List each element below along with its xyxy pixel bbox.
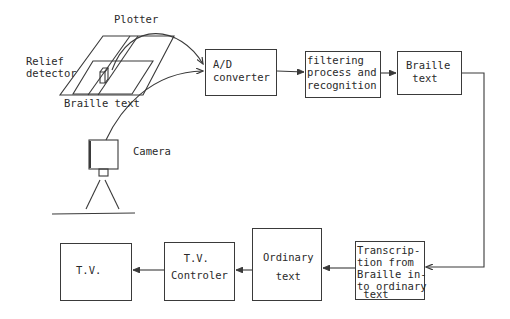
plotter-rail-2	[98, 36, 138, 95]
node-text: text	[406, 72, 438, 85]
camera-icon	[52, 140, 135, 214]
camera-label: Camera	[133, 145, 171, 157]
ad-converter-box: A/D converter	[205, 49, 277, 96]
node-text: Transcrip-	[357, 244, 420, 257]
braille-to-transcription-arrow	[426, 73, 484, 267]
node-text: process and	[307, 66, 377, 79]
braille-text-box: Braille text	[397, 51, 462, 95]
plotter-to-ad-arrow	[112, 34, 203, 70]
relief-detector-label-line2: detector	[26, 67, 77, 79]
tv-box: T.V.	[60, 243, 132, 301]
node-text: T.V.	[76, 264, 101, 277]
plotter-label: Plotter	[114, 13, 158, 25]
node-text: filtering	[307, 54, 364, 67]
braille-text-sheet-label: Braille text	[64, 97, 140, 109]
node-text: Braille	[406, 59, 450, 72]
plotter-rail-1	[88, 36, 130, 95]
node-text: text	[263, 270, 301, 283]
node-text: recognition	[307, 79, 377, 92]
node-text: converter	[213, 71, 270, 84]
plotter-bed	[60, 36, 174, 95]
node-text: Ordinary	[263, 251, 314, 264]
node-text: T.V.	[171, 252, 209, 265]
relief-detector-label-line1: Relief	[26, 55, 64, 67]
node-text: Controler	[171, 269, 228, 282]
filtering-recognition-box: filtering process and recognition	[305, 51, 381, 98]
tv-controller-box: T.V. Controler	[164, 242, 235, 301]
ad-to-filter-arrow	[277, 71, 304, 72]
node-text: A/D	[213, 58, 232, 71]
transcription-box: Transcrip- tion from Braille in- to ordi…	[355, 241, 425, 300]
ordinary-text-box: Ordinary text	[252, 228, 322, 301]
node-text: text	[357, 288, 389, 301]
node-text: Braille in-	[357, 268, 427, 281]
plotter-drawing	[60, 36, 174, 95]
node-text: tion from	[357, 256, 414, 269]
